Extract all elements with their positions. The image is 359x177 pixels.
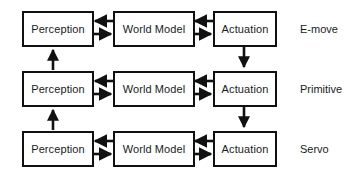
node-label: Perception xyxy=(31,84,85,95)
node-label: Perception xyxy=(31,144,85,155)
node-label: Perception xyxy=(31,24,85,35)
node-label: World Model xyxy=(123,84,186,95)
node-perception-servo[interactable]: Perception xyxy=(22,131,94,167)
node-label: Actuation xyxy=(222,24,269,35)
node-actuation-primitive[interactable]: Actuation xyxy=(213,71,277,107)
level-label-primitive: Primitive xyxy=(300,84,342,95)
node-actuation-emove[interactable]: Actuation xyxy=(213,11,277,47)
node-world-model-emove[interactable]: World Model xyxy=(113,11,195,47)
node-label: Actuation xyxy=(222,84,269,95)
node-world-model-servo[interactable]: World Model xyxy=(113,131,195,167)
level-label-emove: E-move xyxy=(300,24,338,35)
node-label: World Model xyxy=(123,144,186,155)
diagram-canvas: Perception World Model Actuation E-move … xyxy=(0,0,359,177)
node-world-model-primitive[interactable]: World Model xyxy=(113,71,195,107)
node-label: World Model xyxy=(123,24,186,35)
node-actuation-servo[interactable]: Actuation xyxy=(213,131,277,167)
node-perception-emove[interactable]: Perception xyxy=(22,11,94,47)
node-label: Actuation xyxy=(222,144,269,155)
level-label-servo: Servo xyxy=(300,144,329,155)
node-perception-primitive[interactable]: Perception xyxy=(22,71,94,107)
